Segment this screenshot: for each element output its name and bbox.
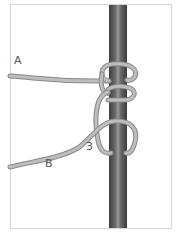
knot-diagram	[0, 0, 177, 235]
label-b: B	[45, 158, 53, 169]
pole	[109, 5, 127, 228]
label-step-3: 3	[86, 141, 93, 152]
label-a: A	[14, 55, 22, 66]
rope-a	[10, 76, 109, 81]
